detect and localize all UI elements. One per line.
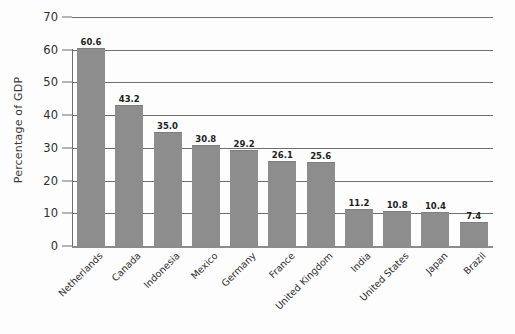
- bar-slot: 11.2: [340, 0, 378, 246]
- bar-slot: 10.8: [378, 0, 416, 246]
- bar-value-label: 26.1: [263, 150, 301, 160]
- bar: [268, 161, 296, 246]
- bar: [421, 212, 449, 246]
- bar-slot: 35.0: [149, 0, 187, 246]
- x-tick-label: Canada: [110, 250, 143, 283]
- bar-slot: 29.2: [225, 0, 263, 246]
- bar: [192, 145, 220, 246]
- bar: [307, 162, 335, 246]
- bar: [230, 150, 258, 246]
- bar: [77, 48, 105, 246]
- bar-value-label: 7.4: [455, 211, 493, 221]
- y-tick-label: 10: [34, 206, 58, 220]
- bar: [460, 222, 488, 246]
- bar-series: 60.643.235.030.829.226.125.611.210.810.4…: [72, 0, 493, 246]
- bar-value-label: 10.8: [378, 200, 416, 210]
- bar-slot: 60.6: [72, 0, 110, 246]
- y-tick-label: 30: [34, 141, 58, 155]
- x-tick-label: Netherlands: [56, 250, 105, 299]
- bar: [154, 132, 182, 247]
- y-tick-label: 20: [34, 174, 58, 188]
- bar-slot: 43.2: [110, 0, 148, 246]
- bar-value-label: 29.2: [225, 139, 263, 149]
- bar-slot: 30.8: [187, 0, 225, 246]
- bar-slot: 7.4: [455, 0, 493, 246]
- bar-slot: 10.4: [416, 0, 454, 246]
- y-axis-tick-labels: 010203040506070: [28, 0, 58, 334]
- y-tick-label: 60: [34, 43, 58, 57]
- bar-value-label: 60.6: [72, 37, 110, 47]
- y-tick-label: 50: [34, 75, 58, 89]
- y-tick-mark: [62, 246, 72, 247]
- y-tick-mark: [62, 115, 72, 116]
- y-tick-mark: [62, 147, 72, 148]
- bar-value-label: 11.2: [340, 198, 378, 208]
- y-tick-mark: [62, 82, 72, 83]
- bar-value-label: 10.4: [416, 201, 454, 211]
- x-tick-label: France: [266, 250, 296, 280]
- x-tick-label: India: [349, 250, 373, 274]
- bar-value-label: 35.0: [149, 121, 187, 131]
- y-tick-mark: [62, 213, 72, 214]
- y-tick-mark: [62, 17, 72, 18]
- x-tick-label: Indonesia: [141, 250, 181, 290]
- y-tick-label: 40: [34, 108, 58, 122]
- bar-value-label: 30.8: [187, 134, 225, 144]
- bar-slot: 26.1: [263, 0, 301, 246]
- bar-chart: Percentage of GDP 010203040506070 60.643…: [0, 0, 515, 334]
- bar: [345, 209, 373, 246]
- x-tick-label: Brazil: [461, 250, 488, 277]
- bar-value-label: 43.2: [110, 94, 148, 104]
- x-tick-label: Mexico: [188, 250, 219, 281]
- bar: [383, 211, 411, 246]
- x-tick-label: Japan: [423, 250, 450, 277]
- y-tick-label: 0: [34, 239, 58, 253]
- y-tick-mark: [62, 49, 72, 50]
- y-tick-label: 70: [34, 10, 58, 24]
- bar-slot: 25.6: [302, 0, 340, 246]
- x-tick-label: Germany: [219, 250, 258, 289]
- y-axis-title: Percentage of GDP: [12, 50, 25, 210]
- x-axis-tick-labels: NetherlandsCanadaIndonesiaMexicoGermanyF…: [72, 248, 493, 334]
- bar-value-label: 25.6: [302, 151, 340, 161]
- bar: [115, 105, 143, 246]
- y-tick-mark: [62, 180, 72, 181]
